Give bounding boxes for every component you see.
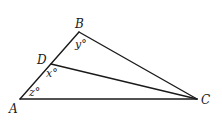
angle-labels: y° x° z° [28,38,87,99]
vertex-labels: B D A C [8,17,210,116]
vertex-label-c: C [201,93,210,107]
angle-label-z: z° [28,86,40,99]
vertex-label-a: A [8,102,18,116]
segment-dc [51,64,197,99]
vertex-label-d: D [36,53,47,67]
segment-bc [79,32,197,99]
geometry-diagram: B D A C y° x° z° [0,0,222,120]
angle-label-y: y° [74,38,87,51]
vertex-label-b: B [74,17,84,31]
angle-label-x: x° [46,67,58,80]
